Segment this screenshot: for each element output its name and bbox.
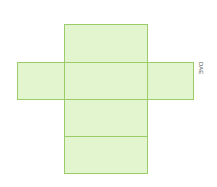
net-face-center (64, 62, 148, 100)
face-label: DAE (198, 62, 204, 74)
net-face-lower2 (64, 136, 148, 174)
net-face-left (17, 62, 65, 100)
net-face-lower1 (64, 99, 148, 137)
net-face-right (147, 62, 194, 100)
net-face-top (64, 24, 148, 63)
